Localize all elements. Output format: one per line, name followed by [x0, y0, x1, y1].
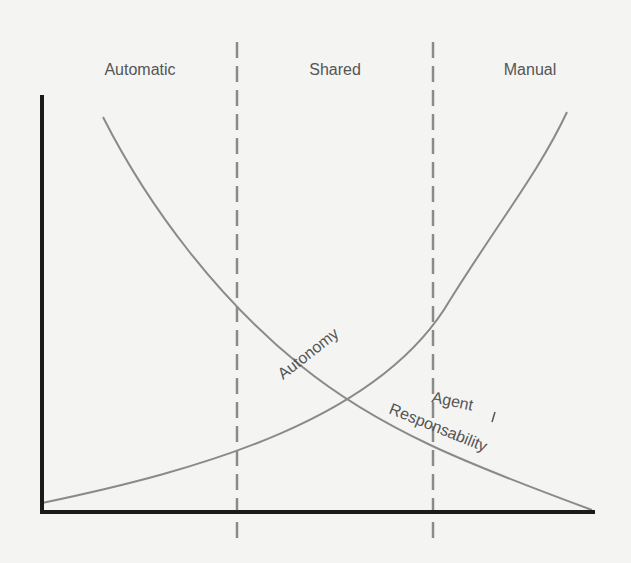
diagram-canvas: Autonomy Agent Responsability Automatic … [0, 0, 631, 563]
responsability-label: Responsability [387, 400, 490, 455]
diagram-svg: Autonomy Agent Responsability [0, 0, 631, 563]
autonomy-curve [42, 112, 567, 503]
agent-label: Agent [430, 388, 475, 413]
agent-label-tick [492, 412, 495, 422]
zone-label-manual: Manual [504, 61, 556, 79]
zone-label-shared: Shared [309, 61, 361, 79]
autonomy-label: Autonomy [274, 325, 341, 383]
responsibility-curve [103, 117, 592, 510]
zone-label-automatic: Automatic [104, 61, 175, 79]
